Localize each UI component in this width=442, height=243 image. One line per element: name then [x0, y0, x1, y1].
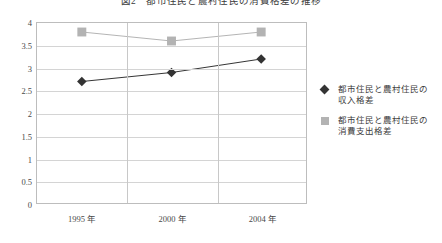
- gridline-horizontal: [37, 137, 306, 138]
- legend-key-income: [316, 85, 338, 96]
- y-axis-tick-label: 3.5: [21, 41, 32, 51]
- series-layer: [37, 23, 306, 203]
- data-point-square[interactable]: [77, 28, 86, 37]
- y-axis-tick-label: 1.5: [21, 132, 32, 142]
- legend-label-income-line2: 収入格差: [338, 95, 428, 106]
- legend-key-expense: [316, 116, 338, 127]
- legend-label-income-line1: 都市住民と農村住民の: [338, 84, 428, 94]
- x-axis-tick-label: 1995 年: [68, 212, 96, 224]
- legend-label-expense: 都市住民と農村住民の 消費支出格差: [338, 115, 428, 137]
- gridline-horizontal: [37, 69, 306, 70]
- data-point-diamond[interactable]: [77, 77, 87, 86]
- gridline-vertical: [218, 23, 219, 203]
- data-point-square[interactable]: [257, 28, 266, 37]
- y-axis-tick-label: 0.5: [21, 177, 32, 187]
- gridline-horizontal: [37, 160, 306, 161]
- x-axis-tick-label: 2000 年: [158, 212, 186, 224]
- y-axis-tick-label: 2: [28, 109, 32, 119]
- chart-title: 図2 都市住民と農村住民の消費格差の推移: [0, 0, 442, 7]
- legend-label-expense-line1: 都市住民と農村住民の: [338, 115, 428, 125]
- legend-entry-income[interactable]: 都市住民と農村住民の 収入格差: [316, 84, 442, 106]
- gridline-horizontal: [37, 182, 306, 183]
- legend-label-expense-line2: 消費支出格差: [338, 126, 428, 137]
- chart-legend: 都市住民と農村住民の 収入格差 都市住民と農村住民の 消費支出格差: [316, 84, 442, 146]
- data-point-diamond[interactable]: [256, 54, 266, 63]
- gridline-horizontal: [37, 46, 306, 47]
- gridline-horizontal: [37, 91, 306, 92]
- chart-figure: 図2 都市住民と農村住民の消費格差の推移 00.511.522.533.5419…: [0, 0, 442, 243]
- data-point-square[interactable]: [167, 37, 176, 46]
- y-axis-tick-label: 3: [28, 64, 32, 74]
- y-axis-tick-label: 2.5: [21, 86, 32, 96]
- gridline-vertical: [127, 23, 128, 203]
- legend-label-income: 都市住民と農村住民の 収入格差: [338, 84, 428, 106]
- y-axis-tick-label: 1: [28, 155, 32, 165]
- diamond-marker-icon: [320, 85, 330, 95]
- legend-entry-expense[interactable]: 都市住民と農村住民の 消費支出格差: [316, 115, 442, 137]
- x-axis-tick-label: 2004 年: [249, 212, 277, 224]
- y-axis-tick-label: 0: [28, 200, 32, 210]
- gridline-horizontal: [37, 114, 306, 115]
- plot-area: 00.511.522.533.541995 年2000 年2004 年: [36, 22, 307, 204]
- y-axis-tick-label: 4: [28, 18, 32, 28]
- square-marker-icon: [321, 117, 329, 125]
